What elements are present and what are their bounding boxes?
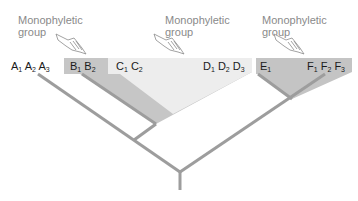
taxon-a: A1 A2 A3 bbox=[11, 60, 50, 76]
taxon-f: F1 F2 F3 bbox=[307, 60, 345, 76]
taxon-d: D1 D2 D3 bbox=[203, 60, 245, 76]
pointing-hand-icon bbox=[54, 30, 88, 56]
taxon-b: B1 B2 bbox=[70, 60, 96, 76]
pointing-hand-icon bbox=[272, 30, 306, 56]
branch-bcd bbox=[134, 124, 156, 140]
phylogenetic-tree-diagram: Monophyletic group Monophyletic group Mo… bbox=[0, 0, 358, 201]
taxon-c: C1 C2 bbox=[116, 60, 143, 76]
taxon-e: E1 bbox=[260, 60, 271, 76]
pointing-hand-icon bbox=[152, 30, 186, 56]
